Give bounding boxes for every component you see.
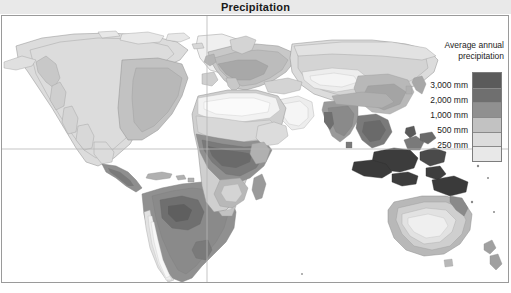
legend-label: 250 mm (406, 138, 468, 153)
legend-swatch (473, 88, 501, 103)
title-bar: Precipitation (0, 0, 511, 14)
legend-title-line2: precipitation (406, 51, 504, 62)
page-title: Precipitation (0, 0, 511, 14)
region-africa (192, 90, 288, 212)
legend-label-list: 3,000 mm 2,000 mm 1,000 mm 500 mm 250 mm (406, 78, 468, 153)
world-map: Average annual precipitation 3,000 mm 2,… (1, 15, 509, 283)
legend-swatch (473, 146, 501, 161)
map-legend: Average annual precipitation 3,000 mm 2,… (406, 40, 506, 166)
legend-swatch (473, 102, 501, 117)
precipitation-map-page: Precipitation (0, 0, 511, 293)
legend-swatch (473, 132, 501, 147)
legend-label: 2,000 mm (406, 93, 468, 108)
legend-label: 1,000 mm (406, 108, 468, 123)
legend-body: 3,000 mm 2,000 mm 1,000 mm 500 mm 250 mm (406, 72, 506, 164)
legend-swatch-column (472, 72, 502, 162)
legend-title: Average annual precipitation (406, 40, 504, 62)
legend-label: 500 mm (406, 123, 468, 138)
legend-swatch (473, 73, 501, 88)
legend-swatch (473, 117, 501, 132)
legend-label: 3,000 mm (406, 78, 468, 93)
legend-title-line1: Average annual (406, 40, 504, 51)
